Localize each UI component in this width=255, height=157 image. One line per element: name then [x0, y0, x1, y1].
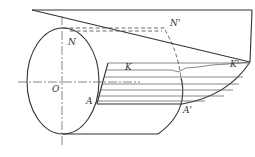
cylinder-section-diagram: N N' K K' O A A'	[0, 0, 255, 157]
cylinder-end-face	[27, 28, 99, 134]
label-n-prime: N'	[169, 18, 180, 28]
label-n: N	[67, 37, 77, 47]
section-curve-a-kprime	[97, 62, 250, 104]
right-end-face-arc	[158, 78, 183, 134]
label-o: O	[52, 84, 60, 94]
cutting-plane	[32, 10, 252, 62]
label-k: K	[124, 62, 133, 72]
label-a-prime: A'	[182, 105, 192, 115]
plane-right-edge	[250, 10, 252, 62]
hidden-end-face-curve	[165, 30, 181, 78]
label-a: A	[85, 96, 93, 106]
label-k-prime: K'	[229, 59, 239, 69]
plane-diagonal-edge	[32, 10, 250, 62]
